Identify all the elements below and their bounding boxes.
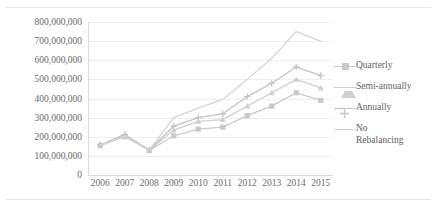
legend-item-label: Annually	[356, 102, 391, 114]
data-point-marker	[171, 133, 176, 138]
data-point-marker	[318, 98, 323, 103]
data-point-marker	[293, 76, 299, 81]
x-axis-baseline	[88, 175, 333, 176]
x-axis-tick-label: 2013	[262, 178, 281, 188]
chart-legend: QuarterlySemi-annuallyAnnuallyNo Rebalan…	[334, 60, 434, 155]
legend-item-label: No Rebalancing	[356, 123, 403, 146]
x-axis-tick-label: 2014	[287, 178, 306, 188]
y-axis-tick-label: 600,000,000	[4, 55, 82, 65]
data-point-marker	[269, 104, 274, 109]
legend-item-no-rebalancing[interactable]: No Rebalancing	[334, 123, 434, 146]
series-line-no-rebalancing	[100, 32, 321, 151]
legend-item-semi-annually[interactable]: Semi-annually	[334, 81, 434, 93]
legend-item-label: Semi-annually	[356, 81, 411, 93]
x-axis-tick-label: 2011	[213, 178, 232, 188]
x-axis-tick-label: 2010	[189, 178, 208, 188]
y-axis-tick-label: 400,000,000	[4, 94, 82, 104]
y-axis-tick-label: 700,000,000	[4, 36, 82, 46]
y-axis-tick-label: 0	[4, 170, 82, 180]
legend-item-quarterly[interactable]: Quarterly	[334, 60, 434, 72]
x-axis-tick-labels: 2006200720082009201020112012201320142015	[88, 178, 333, 194]
x-axis-tick-label: 2015	[311, 178, 330, 188]
y-axis-tick-label: 500,000,000	[4, 74, 82, 84]
data-point-marker	[244, 103, 250, 108]
legend-key-icon	[334, 124, 356, 135]
legend-item-label: Quarterly	[356, 60, 392, 72]
legend-key-icon	[334, 103, 356, 114]
x-axis-tick-label: 2007	[115, 178, 134, 188]
data-point-marker	[195, 114, 201, 120]
series-line-quarterly	[100, 93, 321, 151]
x-axis-tick-label: 2012	[238, 178, 257, 188]
y-axis-tick-label: 300,000,000	[4, 113, 82, 123]
x-axis-tick-label: 2009	[164, 178, 183, 188]
data-point-marker	[245, 113, 250, 118]
data-point-marker	[196, 127, 201, 132]
legend-item-annually[interactable]: Annually	[334, 102, 434, 114]
y-axis-tick-label: 100,000,000	[4, 151, 82, 161]
y-axis-tick-label: 200,000,000	[4, 132, 82, 142]
legend-key-icon	[334, 61, 356, 72]
chart-container: 0100,000,000200,000,000300,000,000400,00…	[0, 0, 437, 212]
figure-bottom-border	[6, 199, 431, 200]
data-point-marker	[318, 72, 324, 78]
data-point-marker	[220, 125, 225, 130]
x-axis-tick-label: 2006	[91, 178, 110, 188]
figure-top-border	[6, 7, 431, 8]
plot-area	[88, 22, 333, 175]
data-point-marker	[294, 90, 299, 95]
legend-key-icon	[334, 82, 356, 93]
data-point-marker	[269, 90, 275, 95]
y-axis-tick-label: 800,000,000	[4, 17, 82, 27]
series-lines	[88, 22, 333, 175]
x-axis-tick-label: 2008	[140, 178, 159, 188]
series-line-annually	[100, 67, 321, 150]
